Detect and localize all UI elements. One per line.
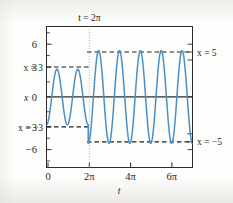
annotation-x-equals-minus-3: x = −3	[18, 123, 43, 133]
y-tick-label-6: 6	[32, 39, 37, 50]
annotation-x-equals-3: x = 3	[23, 63, 43, 73]
plot-canvas: 6 3 0 −3 −6 0 2π 4π 6π t x t = 2π x = 3 …	[0, 0, 233, 203]
annotation-t-equals-2pi: t = 2π	[78, 13, 100, 23]
y-tick-label-0: 0	[32, 92, 37, 103]
x-tick-label-0: 0	[45, 171, 50, 182]
x-axis-ticks	[48, 163, 172, 168]
x-tick-label-4pi: 4π	[125, 171, 136, 182]
x-tick-label-6pi: 6π	[167, 171, 178, 182]
y-axis-name: x	[23, 93, 29, 103]
x-tick-label-2pi: 2π	[84, 171, 95, 182]
x-axis-name: t	[118, 186, 121, 196]
y-tick-label-minus-6: −6	[26, 144, 37, 155]
figure-root: 6 3 0 −3 −6 0 2π 4π 6π t x t = 2π x = 3 …	[0, 0, 233, 203]
annotation-x-equals-5: x = 5	[197, 48, 217, 58]
annotation-x-equals-minus-5: x = −5	[197, 137, 222, 147]
